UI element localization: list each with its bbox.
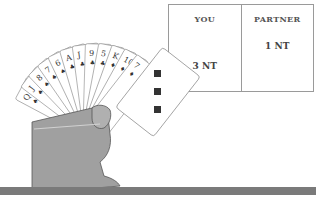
card-suit-icon: ♣ (79, 60, 85, 68)
hand-of-cards-illustration: Q♠J♠8♠7♠6♠A♣J♣9♣5♣K♦10♦7♦ (0, 0, 316, 198)
card-rank: 9 (89, 49, 94, 58)
table-edge (0, 187, 316, 195)
